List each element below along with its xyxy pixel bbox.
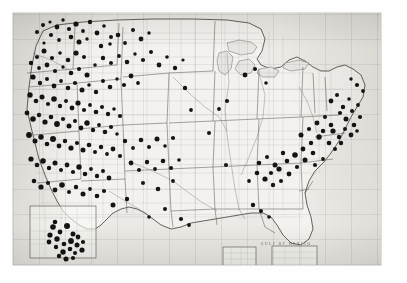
data-dot [187, 223, 191, 227]
data-dot [30, 74, 35, 79]
data-dot [84, 120, 89, 125]
data-dot [100, 105, 104, 109]
data-dot [163, 144, 167, 148]
data-dot [299, 133, 304, 138]
data-dot [46, 181, 50, 185]
data-dot [68, 238, 74, 244]
data-dot [109, 125, 113, 129]
data-dot [53, 69, 57, 73]
gulf-of-mexico-label: GULF OF MEXICO [261, 242, 312, 246]
data-dot [95, 174, 99, 178]
data-dot [85, 37, 88, 40]
data-dot [33, 139, 38, 144]
data-dot [88, 20, 92, 24]
data-dot [40, 95, 45, 100]
data-dot [147, 31, 150, 34]
data-dot [111, 147, 116, 152]
data-dot [329, 99, 334, 104]
data-dot [145, 160, 149, 164]
data-dot [355, 83, 359, 87]
data-dot [118, 114, 122, 118]
data-dot [45, 77, 49, 81]
data-dot [309, 141, 313, 145]
data-dot [105, 152, 109, 156]
data-dot [81, 148, 86, 153]
data-dot [350, 109, 354, 113]
data-dot [129, 74, 134, 79]
data-dot [47, 240, 52, 245]
data-dot [139, 37, 144, 42]
data-dot [67, 124, 72, 129]
data-dot [30, 116, 36, 122]
data-dot [89, 167, 93, 171]
data-dot [45, 63, 50, 68]
data-dot [97, 123, 101, 127]
data-dot [181, 58, 184, 61]
data-dot [77, 40, 82, 45]
data-dot [95, 31, 100, 36]
data-dot [259, 209, 263, 213]
data-dot [165, 55, 169, 59]
data-dot [37, 113, 41, 117]
data-dot [79, 126, 84, 131]
data-dot [85, 73, 90, 78]
data-dot [123, 139, 127, 143]
data-dot [73, 21, 78, 26]
data-dot [34, 99, 39, 104]
data-dot [316, 134, 321, 139]
data-dot [333, 147, 337, 151]
data-dot [116, 33, 121, 38]
data-dot [115, 77, 118, 80]
data-dot [65, 163, 70, 168]
data-dot [303, 158, 308, 163]
data-dot [118, 154, 122, 158]
data-dot [38, 81, 42, 85]
data-dot [59, 182, 65, 188]
data-dot [53, 161, 58, 166]
data-dot [54, 245, 58, 249]
data-dot [81, 29, 85, 33]
data-dot [35, 55, 39, 59]
data-dot [273, 163, 278, 168]
data-dot [75, 100, 80, 105]
data-dot [155, 137, 160, 142]
data-dot [47, 166, 51, 170]
data-dot [52, 84, 57, 89]
data-dot [276, 166, 281, 171]
data-dot [224, 163, 228, 167]
data-dot [315, 121, 320, 126]
data-dot [82, 55, 86, 59]
data-dot [38, 184, 43, 189]
data-dot [285, 159, 290, 164]
data-dot [71, 232, 76, 237]
data-dot [61, 117, 65, 121]
data-dot [76, 235, 81, 240]
data-dot [157, 63, 162, 68]
data-dot [32, 179, 37, 184]
data-dot [171, 136, 175, 140]
data-dot [26, 132, 32, 138]
data-dot [115, 132, 119, 136]
data-dot [281, 151, 285, 155]
data-dot [81, 240, 85, 244]
data-dot [40, 158, 46, 164]
data-dot [355, 129, 359, 133]
data-dot [99, 145, 103, 149]
data-dot [133, 52, 136, 55]
data-dot [59, 79, 63, 83]
data-dot [42, 41, 45, 44]
data-dot [71, 256, 75, 260]
data-dot [57, 38, 61, 42]
data-dot [108, 85, 113, 90]
data-dot [71, 170, 75, 174]
data-dot [177, 158, 181, 162]
data-dot [50, 56, 54, 60]
data-dot [25, 111, 30, 116]
data-dot [102, 24, 106, 28]
data-dot [109, 35, 113, 39]
data-dot [141, 58, 145, 62]
data-dot [257, 161, 262, 166]
data-dot [67, 27, 71, 31]
data-dot [27, 92, 32, 97]
data-dot [81, 192, 86, 197]
